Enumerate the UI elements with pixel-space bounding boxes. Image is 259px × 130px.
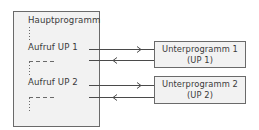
subprogram-2-abbr: (UP 2) xyxy=(187,90,213,101)
arrowhead-right-icon xyxy=(137,47,141,53)
arrowhead-left-icon xyxy=(113,95,117,101)
arrowhead-right-icon xyxy=(137,83,141,89)
main-program-box xyxy=(13,11,100,127)
arrowhead-left-icon xyxy=(113,58,117,64)
subprogram-2-name: Unterprogramm 2 xyxy=(162,79,238,90)
subprogram-box-2: Unterprogramm 2 (UP 2) xyxy=(154,76,246,104)
call-label-up2: Aufruf UP 2 xyxy=(28,77,78,87)
subprogram-1-name: Unterprogramm 1 xyxy=(162,44,238,55)
call-label-up1: Aufruf UP 1 xyxy=(28,42,78,52)
subprogram-1-abbr: (UP 1) xyxy=(187,55,213,66)
main-program-title: Hauptprogramm xyxy=(28,15,100,25)
subprogram-box-1: Unterprogramm 1 (UP 1) xyxy=(154,41,246,68)
